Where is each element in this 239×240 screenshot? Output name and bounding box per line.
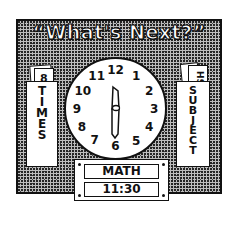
- times-label: T I M E S: [27, 86, 57, 141]
- board-title: “What's Next?”: [18, 21, 220, 43]
- screw-bottom-right: [162, 194, 165, 197]
- screw-top-left: [78, 163, 81, 166]
- screw-top-right: [162, 163, 165, 166]
- analog-clock: 12 1 2 3 4 5 6 7 8 9 10 11: [64, 57, 167, 160]
- schedule-plate: MATH 11:30: [74, 159, 169, 201]
- screw-bottom-left: [78, 194, 81, 197]
- clock-hands-icon: [66, 59, 165, 158]
- times-pocket[interactable]: T I M E S: [26, 81, 58, 167]
- time-value: 11:30: [102, 182, 140, 196]
- subject-value: MATH: [102, 164, 141, 178]
- subject-pocket[interactable]: S U B J E C T: [176, 81, 210, 167]
- time-slot[interactable]: 11:30: [84, 182, 159, 197]
- subject-slot[interactable]: MATH: [84, 164, 159, 179]
- subject-label: S U B J E C T: [177, 86, 209, 156]
